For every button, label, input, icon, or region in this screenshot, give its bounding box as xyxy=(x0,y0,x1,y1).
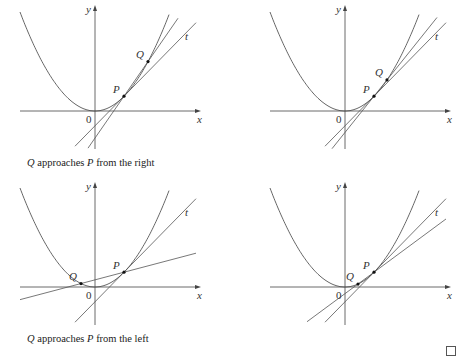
tangent-t-label: t xyxy=(435,30,439,42)
point-p-label: P xyxy=(112,259,120,271)
point-q xyxy=(79,282,82,285)
caption-text: approaches xyxy=(35,333,87,344)
y-axis-label: y xyxy=(335,3,341,15)
caption-text: approaches xyxy=(35,157,87,168)
secant-line-pq xyxy=(307,219,446,322)
y-axis-label: y xyxy=(85,180,91,192)
point-q-label: Q xyxy=(346,270,354,282)
secant-line-pq xyxy=(88,18,178,148)
y-axis-arrow-icon xyxy=(93,182,97,188)
secant-line-pq xyxy=(20,253,196,299)
point-p-label: P xyxy=(362,83,370,95)
y-axis-arrow-icon xyxy=(343,182,347,188)
point-p xyxy=(372,271,375,274)
point-q-label: Q xyxy=(136,48,144,60)
x-axis-label: x xyxy=(446,113,452,125)
tangent-line-t xyxy=(75,199,196,323)
caption-from-left: Q approaches P from the left xyxy=(27,333,149,344)
y-axis-arrow-icon xyxy=(343,5,347,11)
tangent-t-label: t xyxy=(185,30,189,42)
caption-q: Q xyxy=(27,157,35,168)
tangent-t-label: t xyxy=(435,206,439,218)
tangent-secant-figure: yx0PQtyx0PQtyx0PQtyx0PQt xyxy=(0,0,459,361)
parabola-curve xyxy=(270,12,419,111)
checkbox[interactable] xyxy=(446,346,456,356)
parabola-curve xyxy=(20,188,169,287)
tangent-line-t xyxy=(75,23,196,147)
x-axis-label: x xyxy=(196,113,202,125)
caption-from-right: Q approaches P from the right xyxy=(27,157,154,168)
point-p-label: P xyxy=(362,259,370,271)
x-axis-label: x xyxy=(196,289,202,301)
y-axis-label: y xyxy=(335,180,341,192)
y-axis-arrow-icon xyxy=(93,5,97,11)
caption-q: Q xyxy=(27,333,35,344)
point-p xyxy=(372,95,375,98)
point-p-label: P xyxy=(112,83,120,95)
point-q xyxy=(356,282,359,285)
origin-label: 0 xyxy=(86,113,92,125)
point-p xyxy=(122,95,125,98)
tangent-line-t xyxy=(325,199,446,323)
caption-text: from the left xyxy=(94,333,149,344)
point-q xyxy=(385,78,388,81)
caption-text: from the right xyxy=(94,157,155,168)
parabola-curve xyxy=(270,188,419,287)
origin-label: 0 xyxy=(86,289,92,301)
y-axis-label: y xyxy=(85,3,91,15)
point-p xyxy=(122,271,125,274)
tangent-t-label: t xyxy=(185,206,189,218)
tangent-line-t xyxy=(325,23,446,147)
origin-label: 0 xyxy=(336,289,342,301)
point-q xyxy=(146,60,149,63)
point-q-label: Q xyxy=(69,270,77,282)
secant-line-pq xyxy=(332,17,437,148)
point-q-label: Q xyxy=(375,66,383,78)
x-axis-label: x xyxy=(446,289,452,301)
origin-label: 0 xyxy=(336,113,342,125)
